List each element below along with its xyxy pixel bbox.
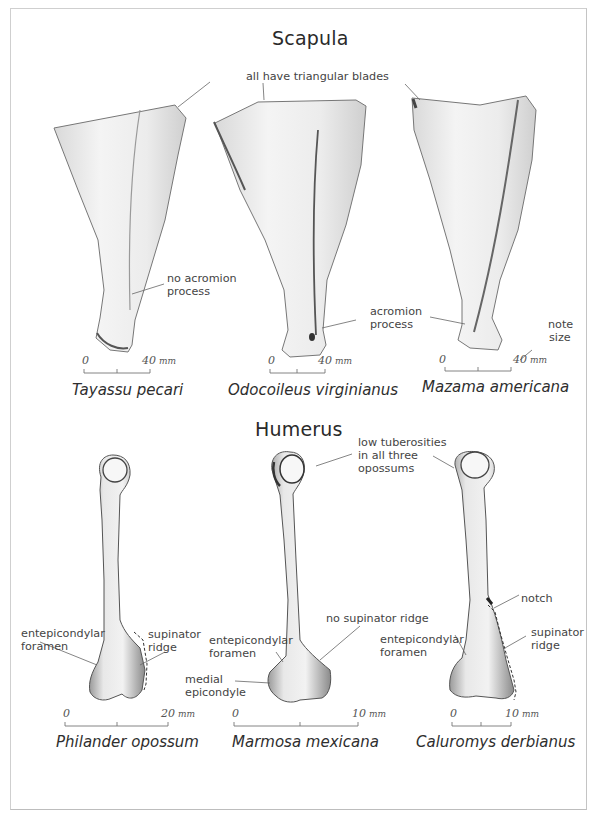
annotation-low-tuberosities-1: low tuberosities — [358, 436, 446, 449]
scapula-odocoileus-virginianus — [214, 100, 366, 357]
annotation-note-size-1: note — [548, 318, 573, 331]
species-philander-opossum: Philander opossum — [56, 733, 199, 751]
annotation-triangular-blades: all have triangular blades — [246, 70, 389, 83]
scale-start: 0 — [450, 707, 457, 720]
section-title-scapula: Scapula — [272, 27, 349, 49]
annotation-low-tuberosities-3: opossums — [358, 462, 414, 475]
humerus-caluromys-derbianus — [450, 451, 516, 700]
annotation-medial-epicondyle-b: epicondyle — [185, 686, 246, 699]
scapula-mazama-americana — [412, 96, 536, 350]
annotation-note-size-2: size — [549, 331, 571, 344]
annotation-supinator-3a: supinator — [531, 626, 584, 639]
annotation-notch: notch — [521, 592, 553, 605]
annotation-entepicondylar-2b: foramen — [209, 647, 256, 660]
annotation-entepicondylar-1b: foramen — [21, 640, 68, 653]
annotation-low-tuberosities-2: in all three — [358, 449, 418, 462]
species-caluromys-derbianus: Caluromys derbianus — [416, 733, 575, 751]
scale-start: 0 — [232, 707, 239, 720]
scale-end: 10mm — [352, 707, 386, 720]
scapula-tayassu-pecari — [54, 105, 186, 352]
humerus-philander-opossum — [89, 455, 147, 700]
species-odocoileus-virginianus: Odocoileus virginianus — [228, 381, 398, 399]
species-marmosa-mexicana: Marmosa mexicana — [232, 733, 379, 751]
humerus-marmosa-mexicana — [268, 452, 331, 702]
annotation-no-supinator-ridge: no supinator ridge — [326, 612, 429, 625]
annotation-medial-epicondyle-a: medial — [185, 673, 223, 686]
annotation-supinator-3b: ridge — [531, 639, 560, 652]
species-mazama-americana: Mazama americana — [422, 378, 569, 396]
scale-end: 40mm — [318, 354, 352, 367]
annotation-no-acromion-2: process — [167, 285, 210, 298]
scale-start: 0 — [63, 707, 70, 720]
annotation-acromion-2: process — [370, 318, 413, 331]
scale-start: 0 — [439, 353, 446, 366]
annotation-no-acromion-1: no acromion — [167, 272, 237, 285]
section-title-humerus: Humerus — [255, 418, 343, 440]
scale-end: 20mm — [161, 707, 195, 720]
scale-end: 40mm — [513, 353, 547, 366]
scale-end: 40mm — [142, 354, 176, 367]
bone-illustrations — [0, 0, 602, 817]
scale-start: 0 — [82, 354, 89, 367]
annotation-supinator-1b: ridge — [148, 641, 177, 654]
species-tayassu-pecari: Tayassu pecari — [72, 381, 183, 399]
annotation-acromion-1: acromion — [370, 305, 422, 318]
annotation-entepicondylar-3b: foramen — [380, 646, 427, 659]
scale-end: 10mm — [505, 707, 539, 720]
annotation-entepicondylar-1a: entepicondylar — [21, 627, 105, 640]
annotation-entepicondylar-2a: entepicondylar — [209, 634, 293, 647]
annotation-supinator-1a: supinator — [148, 628, 201, 641]
scale-start: 0 — [268, 354, 275, 367]
annotation-entepicondylar-3a: entepicondylar — [380, 633, 464, 646]
